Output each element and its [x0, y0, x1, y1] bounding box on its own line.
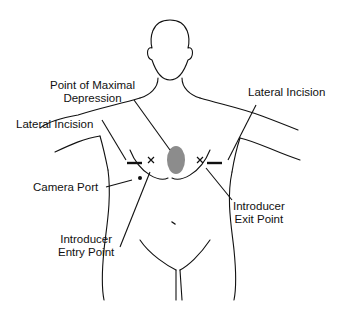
- head-outline: [148, 20, 193, 80]
- right-arm-lower: [240, 138, 300, 160]
- label-introducer-exit-point: Introducer Exit Point: [233, 200, 285, 226]
- label-lateral-incision-left: Lateral Incision: [16, 118, 93, 131]
- neck-left: [140, 78, 158, 98]
- neck-right: [182, 78, 200, 98]
- right-shoulder: [200, 98, 298, 130]
- label-introducer-entry-point: Introducer Entry Point: [58, 233, 114, 259]
- navel: [172, 222, 175, 224]
- leader-entry: [120, 172, 150, 247]
- leader-lateral-right: [228, 105, 256, 160]
- leader-camera: [106, 180, 132, 187]
- leg-inner-right: [180, 270, 182, 300]
- leader-lateral-left: [102, 120, 126, 160]
- label-point-of-maximal-depression: Point of Maximal Depression: [50, 79, 135, 105]
- left-armpit: [100, 136, 108, 170]
- leader-exit: [206, 168, 232, 200]
- leader-depression: [134, 100, 170, 150]
- torso-illustration: [0, 0, 341, 313]
- groin-right: [180, 240, 210, 270]
- left-arm-lower: [55, 136, 100, 152]
- camera-port-dot: [138, 176, 142, 180]
- diagram-canvas: Point of Maximal Depression Lateral Inci…: [0, 0, 341, 313]
- groin-left: [140, 240, 176, 270]
- label-lateral-incision-right: Lateral Incision: [248, 86, 325, 99]
- x-marker-left: [148, 157, 154, 163]
- x-marker-right: [197, 157, 203, 163]
- label-camera-port: Camera Port: [33, 181, 98, 194]
- torso-right: [229, 172, 235, 300]
